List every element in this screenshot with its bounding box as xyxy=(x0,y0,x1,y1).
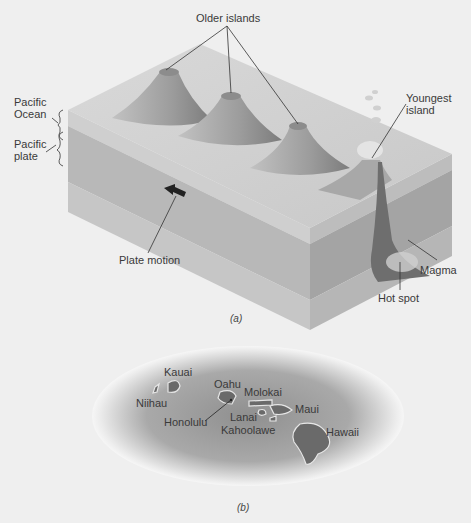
island-molokai xyxy=(249,400,272,406)
honolulu-dot xyxy=(230,399,232,401)
hotspot-block-diagram xyxy=(0,0,471,523)
hot-spot xyxy=(386,252,418,272)
label-older-islands: Older islands xyxy=(196,12,260,24)
label-pacific-ocean-1: Pacific xyxy=(14,96,46,108)
caption-b: (b) xyxy=(237,502,249,513)
island-lanai xyxy=(258,410,266,416)
label-kahoolawe: Kahoolawe xyxy=(221,424,275,436)
label-youngest-island-1: Youngest xyxy=(406,92,451,104)
label-pacific-ocean-2: Ocean xyxy=(14,108,46,120)
label-hot-spot: Hot spot xyxy=(378,292,419,304)
caption-a: (a) xyxy=(230,313,242,324)
label-pacific-plate-2: plate xyxy=(14,150,38,162)
label-plate-motion: Plate motion xyxy=(119,254,180,266)
label-maui: Maui xyxy=(295,403,319,415)
label-youngest-island-2: island xyxy=(406,104,435,116)
label-oahu: Oahu xyxy=(214,378,241,390)
layer-braces xyxy=(57,110,63,166)
label-molokai: Molokai xyxy=(244,386,282,398)
island-kauai xyxy=(168,381,180,393)
label-niihau: Niihau xyxy=(136,397,167,409)
label-lanai: Lanai xyxy=(230,411,257,423)
label-kauai: Kauai xyxy=(164,366,192,378)
label-hawaii: Hawaii xyxy=(326,426,359,438)
label-magma: Magma xyxy=(420,264,457,276)
label-pacific-plate-1: Pacific xyxy=(14,138,46,150)
label-honolulu: Honolulu xyxy=(164,416,207,428)
